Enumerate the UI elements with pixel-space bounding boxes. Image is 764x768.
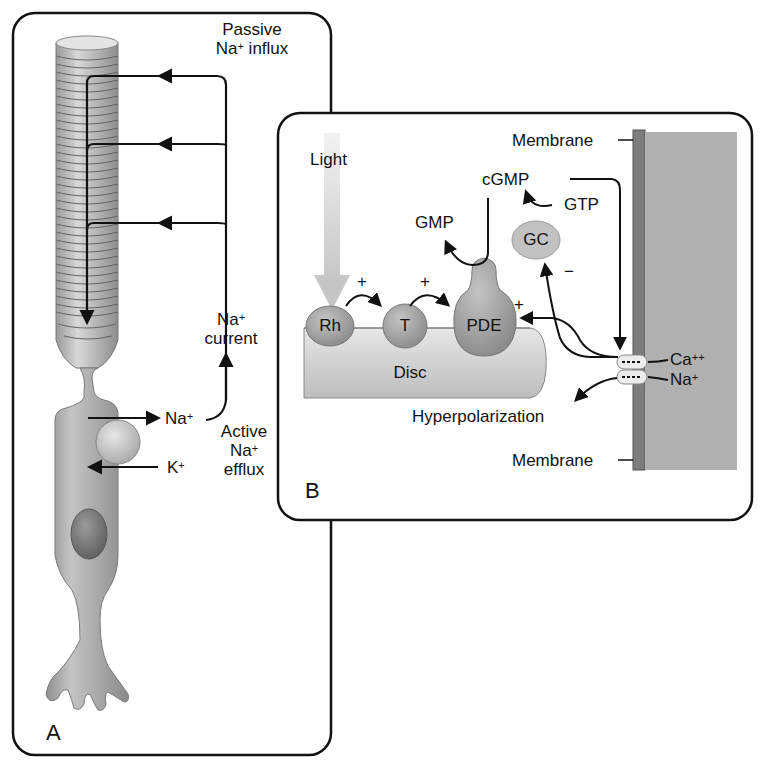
plus-sign-rh-t: + <box>357 272 367 291</box>
active-line2: Na+ <box>210 441 278 460</box>
gmp-label: GMP <box>415 213 454 232</box>
light-label: Light <box>310 150 347 169</box>
k-influx-ion-label: K+ <box>167 458 185 477</box>
current-line2: current <box>196 329 266 348</box>
nucleus <box>71 509 107 559</box>
current-line1: Na+ <box>196 310 266 329</box>
passive-influx-label: Passive Na+ influx <box>192 20 312 58</box>
ca-ion-label: Ca++ <box>670 350 705 369</box>
plus-sign-t-pde: + <box>420 272 430 291</box>
na-current-label: Na+ current <box>196 310 266 348</box>
passive-line1: Passive <box>192 20 312 39</box>
membrane-top-label: Membrane <box>512 131 593 150</box>
plus-sign-pde: + <box>514 295 524 314</box>
minus-sign-gc: − <box>564 262 574 281</box>
gc-label: GC <box>512 230 560 250</box>
mitochondrion <box>96 420 140 464</box>
t-label: T <box>383 316 427 336</box>
extracellular-space <box>645 132 737 470</box>
disc-label: Disc <box>380 363 440 383</box>
gtp-label: GTP <box>564 195 599 214</box>
hyperpolarization-label: Hyperpolarization <box>412 407 544 426</box>
panel-b-letter: B <box>305 478 320 504</box>
passive-line2: Na+ influx <box>192 39 312 58</box>
na-ion-label: Na+ <box>670 370 698 389</box>
diagram-canvas <box>0 0 764 768</box>
active-line1: Active <box>210 422 278 441</box>
cgmp-label: cGMP <box>482 170 529 189</box>
membrane-bottom-label: Membrane <box>512 451 593 470</box>
panel-a-letter: A <box>46 720 61 746</box>
pde-label: PDE <box>454 316 514 336</box>
active-line3: efflux <box>210 460 278 479</box>
cell-membrane <box>633 130 645 470</box>
na-efflux-ion-label: Na+ <box>165 409 193 428</box>
rh-label: Rh <box>306 316 354 336</box>
active-efflux-label: Active Na+ efflux <box>210 422 278 479</box>
